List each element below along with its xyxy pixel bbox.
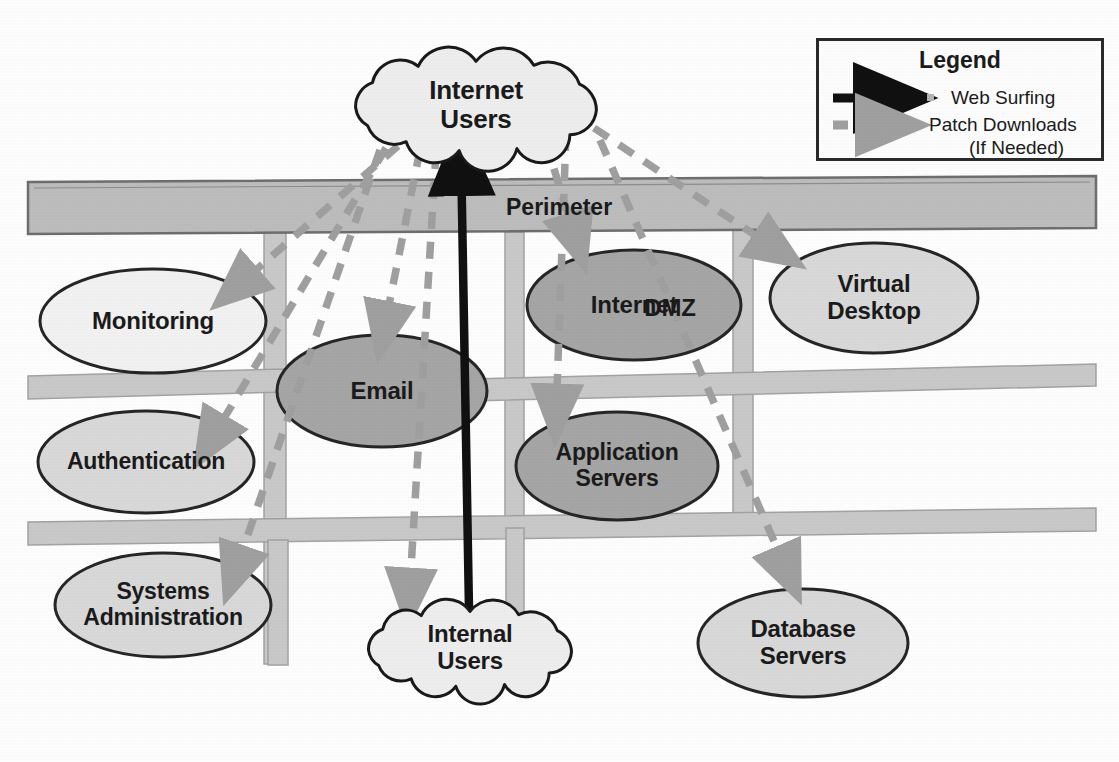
node-monitoring	[40, 269, 266, 373]
rail-horizontal-upper-right	[470, 364, 1096, 401]
node-application-servers	[516, 412, 718, 520]
node-systems-administration	[55, 553, 271, 657]
legend-label-patch-downloads: Patch Downloads	[929, 114, 1077, 136]
diagram-canvas: Perimeter MonitoringAuthenticationSystem…	[0, 0, 1119, 762]
rail-horizontal-lower	[28, 508, 1096, 545]
flow-patch-internet-to-email	[383, 150, 420, 335]
legend-dot-marker	[927, 94, 934, 101]
legend-panel: Legend Web Surfing Patch Downloads (If N…	[816, 38, 1104, 161]
legend-label-web-surfing: Web Surfing	[951, 87, 1055, 109]
legend-label-patch-downloads-note: (If Needed)	[969, 137, 1064, 159]
node-virtual-desktop	[770, 243, 978, 353]
node-authentication	[38, 411, 254, 513]
perimeter-label: Perimeter	[506, 194, 612, 221]
cloud-internal-users	[369, 599, 572, 704]
node-database-servers	[698, 589, 908, 697]
